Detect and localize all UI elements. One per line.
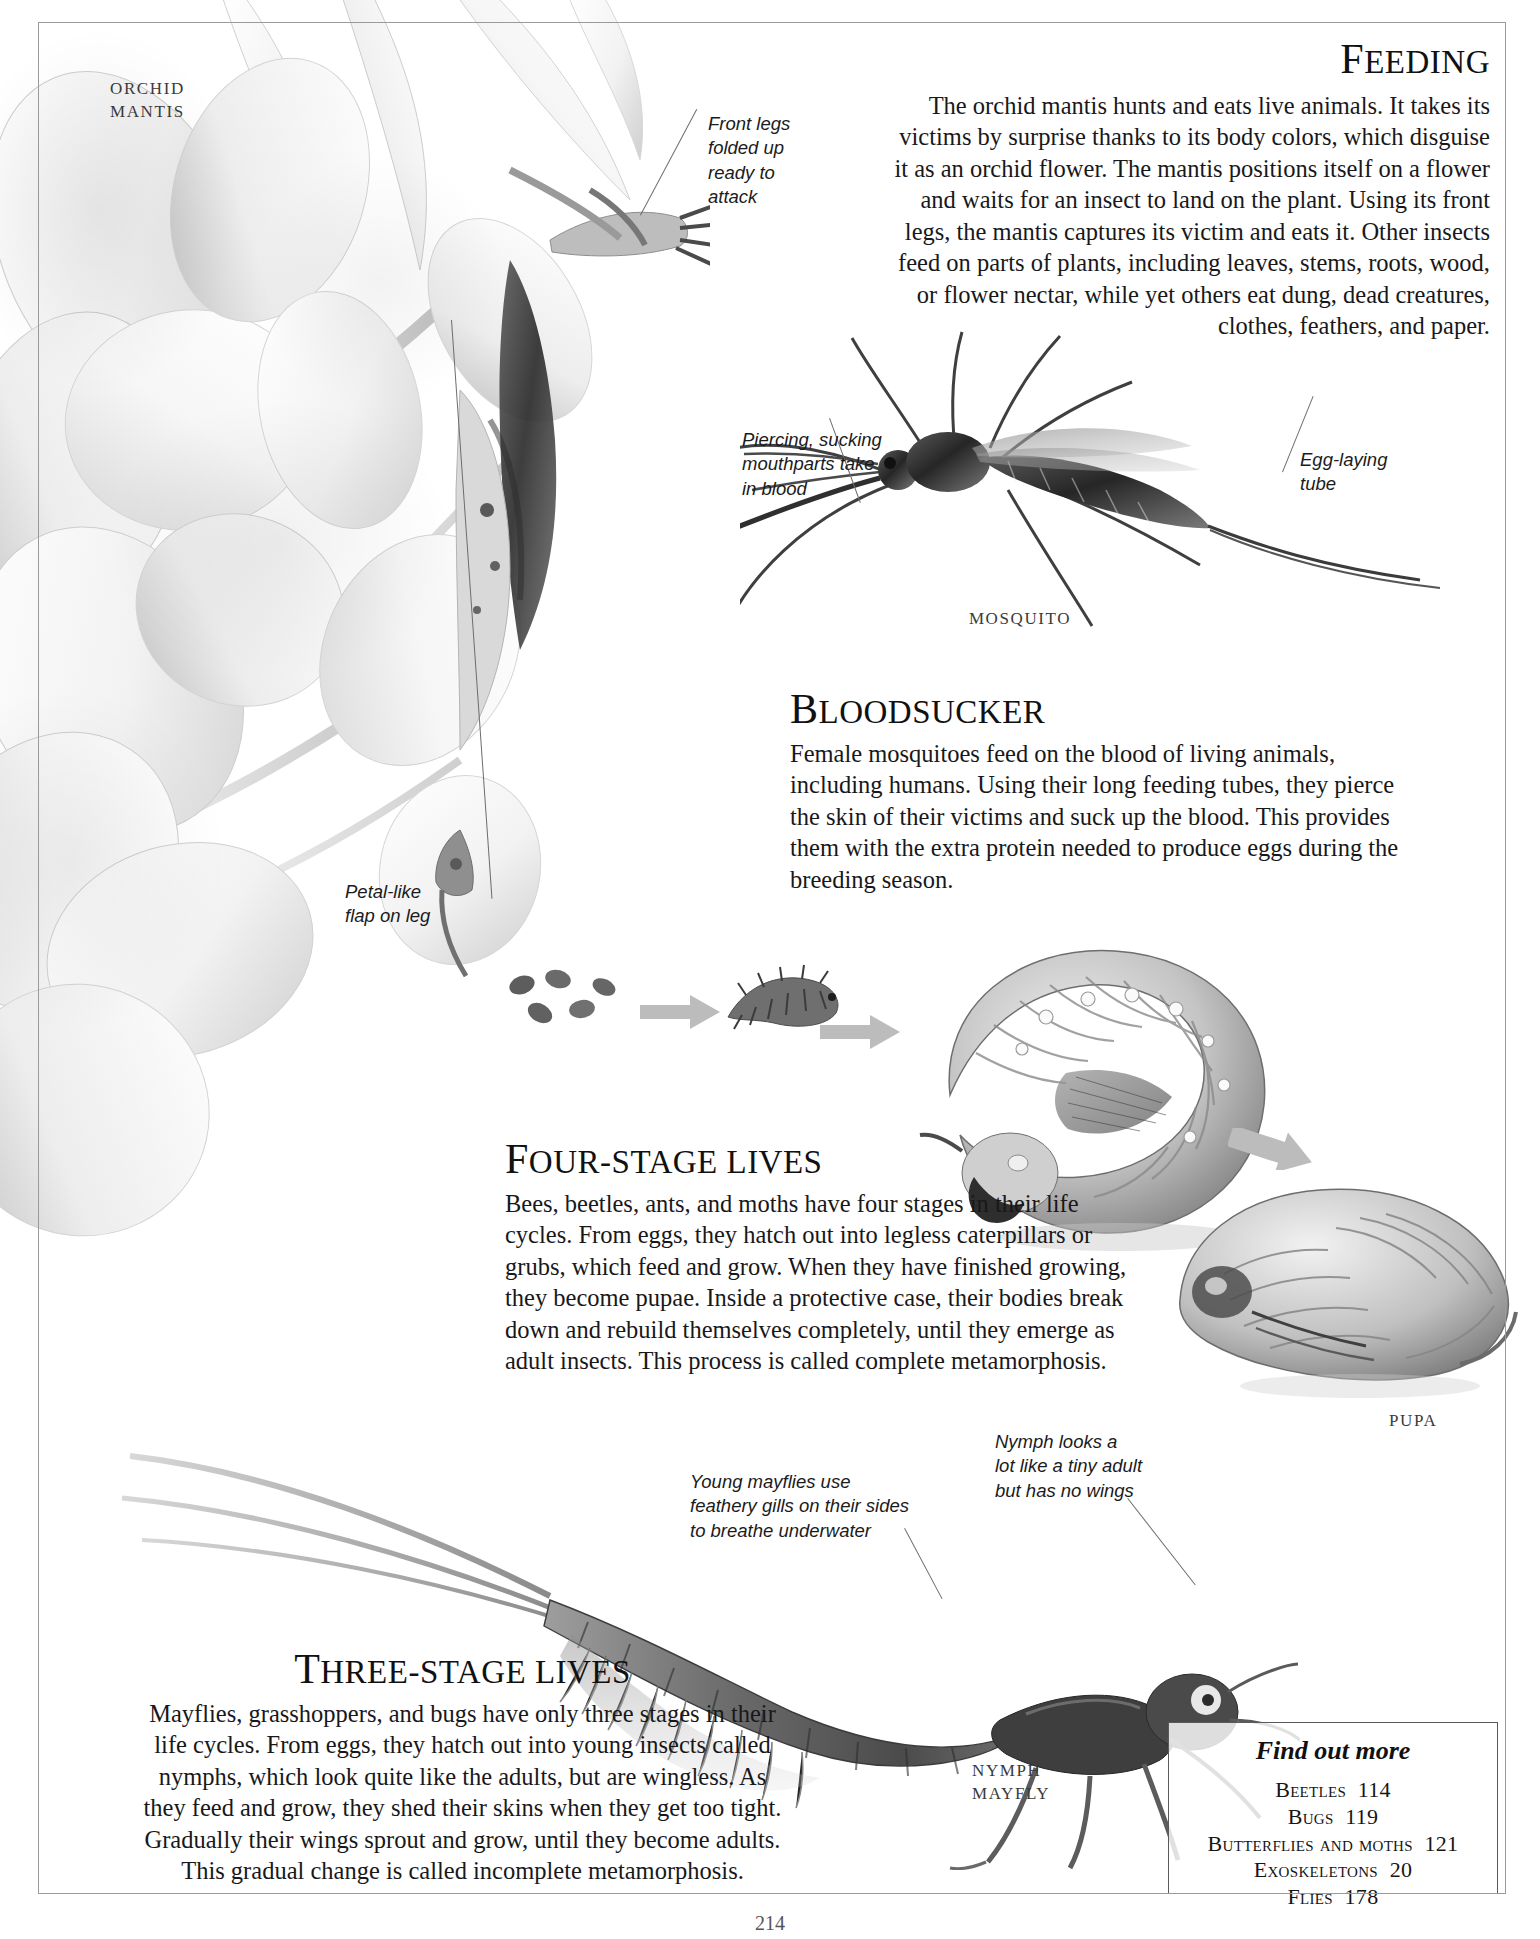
find-out-more-entry-name: Exoskeletons: [1254, 1857, 1378, 1882]
heading-four-stage-rest: OUR-: [529, 1144, 612, 1180]
callout-nymph-wings: Nymph looks a lot like a tiny adult but …: [995, 1430, 1215, 1503]
label-orchid-mantis: ORCHID MANTIS: [110, 78, 185, 124]
heading-bloodsucker-rest: LOODSUCKER: [819, 694, 1046, 730]
find-out-more-entry[interactable]: Beetles 114: [1169, 1777, 1497, 1804]
find-out-more-entry-name: Bugs: [1288, 1804, 1334, 1829]
find-out-more-entry-name: Butterflies and moths: [1208, 1831, 1413, 1856]
heading-bloodsucker: BLOODSUCKER: [790, 688, 1410, 730]
section-three-stage: THREE-STAGE LIVES Mayflies, grasshoppers…: [140, 1648, 785, 1887]
label-mayfly: MAYFLY: [972, 1783, 1050, 1806]
find-out-more-entry-page: 121: [1425, 1831, 1459, 1856]
life-cycle-pupa: [1160, 1170, 1530, 1400]
heading-four-stage: FOUR-STAGE LIVES: [505, 1138, 1155, 1180]
find-out-more-entry[interactable]: Flies 178: [1169, 1884, 1497, 1911]
life-cycle-arrow-1: [640, 995, 720, 1029]
body-three-stage: Mayflies, grasshoppers, and bugs have on…: [140, 1698, 785, 1887]
heading-three-stage-initial: T: [294, 1646, 320, 1692]
heading-feeding: FEEDING: [880, 38, 1490, 80]
heading-four-stage-initial: F: [505, 1136, 529, 1182]
label-orchid-mantis-line1: ORCHID: [110, 78, 185, 101]
callout-front-legs: Front legs folded up ready to attack: [708, 112, 878, 210]
callout-mouthparts: Piercing, sucking mouthparts take in blo…: [742, 428, 942, 501]
label-nymph-mayfly: NYMPH MAYFLY: [972, 1760, 1050, 1806]
body-bloodsucker: Female mosquitoes feed on the blood of l…: [790, 738, 1410, 895]
body-feeding: The orchid mantis hunts and eats live an…: [880, 90, 1490, 342]
find-out-more-entry-name: Beetles: [1275, 1777, 1346, 1802]
callout-petal-flap: Petal-like flap on leg: [345, 880, 525, 929]
label-pupa: PUPA: [1389, 1410, 1437, 1433]
find-out-more-entry-page: 119: [1345, 1804, 1378, 1829]
find-out-more-list: Beetles 114 Bugs 119 Butterflies and mot…: [1169, 1777, 1497, 1911]
find-out-more-entry-page: 178: [1345, 1884, 1379, 1909]
life-cycle-arrow-3: [1228, 1128, 1314, 1170]
section-bloodsucker: BLOODSUCKER Female mosquitoes feed on th…: [790, 688, 1410, 895]
find-out-more-entry[interactable]: Butterflies and moths 121: [1169, 1831, 1497, 1858]
heading-feeding-rest: EEDING: [1364, 44, 1490, 80]
label-orchid-mantis-line2: MANTIS: [110, 101, 185, 124]
find-out-more-entry-page: 114: [1358, 1777, 1391, 1802]
body-four-stage: Bees, beetles, ants, and moths have four…: [505, 1188, 1145, 1377]
section-four-stage: FOUR-STAGE LIVES Bees, beetles, ants, an…: [505, 1138, 1155, 1377]
find-out-more-box: Find out more Beetles 114 Bugs 119 Butte…: [1168, 1722, 1498, 1894]
find-out-more-entry-name: Flies: [1288, 1884, 1333, 1909]
heading-four-stage-tail: STAGE LIVES: [612, 1144, 823, 1180]
heading-bloodsucker-initial: B: [790, 686, 819, 732]
label-mosquito: MOSQUITO: [940, 608, 1100, 631]
find-out-more-entry[interactable]: Bugs 119: [1169, 1804, 1497, 1831]
find-out-more-entry-page: 20: [1390, 1857, 1413, 1882]
heading-three-stage: THREE-STAGE LIVES: [140, 1648, 785, 1690]
page-number: 214: [0, 1912, 1540, 1935]
callout-gills: Young mayflies use feathery gills on the…: [690, 1470, 940, 1543]
label-nymph: NYMPH: [972, 1760, 1050, 1783]
heading-three-stage-tail: STAGE LIVES: [420, 1654, 631, 1690]
heading-three-stage-rest: HREE-: [320, 1654, 420, 1690]
heading-feeding-initial: F: [1340, 36, 1364, 82]
section-feeding: FEEDING The orchid mantis hunts and eats…: [880, 38, 1490, 342]
life-cycle-arrow-2: [820, 1015, 900, 1049]
find-out-more-title: Find out more: [1169, 1736, 1497, 1766]
callout-egg-tube: Egg-laying tube: [1300, 448, 1460, 497]
orchid-mantis-illustration: [0, 0, 710, 1320]
life-cycle-eggs: [500, 965, 630, 1045]
find-out-more-entry[interactable]: Exoskeletons 20: [1169, 1857, 1497, 1884]
